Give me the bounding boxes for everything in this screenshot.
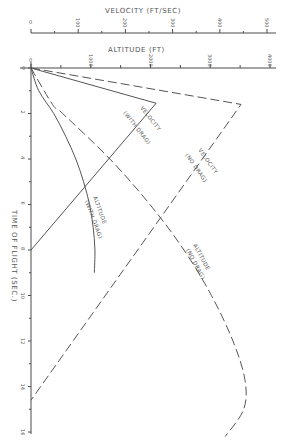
time-tick-label: 0 [22, 65, 25, 71]
velocity-axis: VELOCITY (FT/SEC) 0100200300400500 [29, 7, 276, 33]
altitude-axis-ticks: 01000200030004000 [29, 54, 273, 68]
time-tick-label: 4 [20, 156, 26, 159]
altitude-tick-label: 3000 [207, 54, 213, 67]
velocity-no-drag-curve [31, 68, 241, 400]
time-tick-label: 8 [20, 247, 26, 250]
altitude-tick-label: 2000 [148, 54, 154, 67]
time-tick-label: 14 [20, 384, 26, 390]
trajectory-chart: VELOCITY (FT/SEC) 0100200300400500 ALTIT… [0, 0, 293, 448]
time-tick-label: 10 [20, 293, 26, 299]
velocity-axis-ticks: 0100200300400500 [29, 18, 270, 33]
altitude-with-drag-curve [31, 68, 95, 273]
time-tick-label: 16 [20, 429, 26, 435]
velocity-tick-label: 400 [217, 18, 223, 28]
velocity-tick-label: 500 [264, 18, 270, 28]
curve-labels: VELOCITY (WITH DRAG) VELOCITY (NO DRAG) … [84, 105, 219, 280]
velocity-tick-label: 300 [170, 18, 176, 28]
time-axis: 0246810121416 TIME OF FLIGHT (SEC.) [10, 62, 31, 435]
time-axis-title: TIME OF FLIGHT (SEC.) [10, 209, 18, 302]
time-tick-label: 2 [20, 111, 26, 114]
time-tick-label: 12 [20, 338, 26, 344]
velocity-tick-label: 100 [75, 18, 81, 28]
altitude-tick-label: 4000 [267, 54, 273, 67]
altitude-tick-label: 1000 [88, 54, 94, 67]
altitude-axis-title: ALTITUDE (FT) [108, 46, 165, 54]
time-axis-ticks: 0246810121416 [20, 65, 31, 435]
velocity-tick-label: 200 [122, 18, 128, 28]
velocity-axis-title: VELOCITY (FT/SEC) [105, 7, 181, 15]
velocity-tick-label: 0 [29, 19, 32, 25]
time-tick-label: 6 [20, 202, 26, 205]
altitude-axis: ALTITUDE (FT) 01000200030004000 [20, 46, 276, 68]
